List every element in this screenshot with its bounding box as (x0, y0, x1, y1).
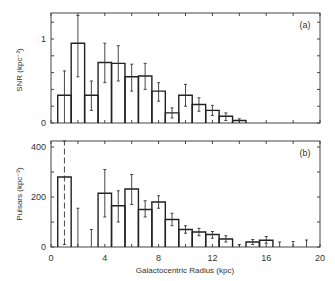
x-tick-label: 16 (261, 253, 271, 263)
panel-b-histogram (58, 177, 273, 247)
panel-a-histogram (58, 43, 246, 123)
x-tick-label: 0 (48, 253, 53, 263)
panel-b-ytick-0: 0 (41, 242, 46, 252)
panel-b-xtick-labels: 048121620 (48, 253, 325, 263)
panel-a-label: (a) (300, 20, 311, 30)
panel-b-ytick-200: 200 (31, 192, 46, 202)
panel-b: (b) 0 200 400 Pulsars (kpc⁻²) 048121620 … (15, 141, 325, 275)
panel-b-error-bars (63, 141, 308, 247)
panel-b-ylabel: Pulsars (kpc⁻²) (15, 167, 24, 221)
panel-a-ytick-0: 0 (41, 118, 46, 128)
x-tick-label: 12 (207, 253, 217, 263)
panel-b-ytick-400: 400 (31, 142, 46, 152)
histogram-bar (152, 202, 165, 247)
x-tick-label: 8 (156, 253, 161, 263)
panel-a-ylabel: SNR (kpc⁻²) (15, 48, 24, 92)
x-axis-label: Galactocentric Radius (kpc) (136, 266, 235, 275)
x-tick-label: 4 (102, 253, 107, 263)
panel-a-ytick-1: 1 (41, 34, 46, 44)
panel-a: (a) 0 1 SNR (kpc⁻²) (15, 13, 320, 128)
figure: (a) 0 1 SNR (kpc⁻²) (b) 0 200 400 Pulsar… (0, 0, 335, 281)
x-tick-label: 20 (315, 253, 325, 263)
panel-b-label: (b) (300, 148, 311, 158)
